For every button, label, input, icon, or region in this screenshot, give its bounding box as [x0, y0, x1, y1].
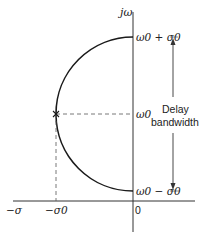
bottom-point-label: ω0 − σ0 [136, 185, 181, 197]
omega0-label: ω0 [136, 108, 152, 120]
origin-label: 0 [135, 204, 141, 216]
bandwidth-label: bandwidth [151, 116, 199, 128]
neg-sigma0-label: −σ0 [45, 204, 68, 216]
s-plane-diagram: jω ω0 + σ0 ω0 ω0 − σ0 Delay bandwidth −σ… [0, 0, 201, 241]
top-point-label: ω0 + σ0 [136, 31, 181, 43]
neg-sigma-axis-label: −σ [6, 204, 23, 216]
delay-label: Delay [162, 103, 190, 115]
j-omega-axis-label: jω [117, 6, 132, 19]
